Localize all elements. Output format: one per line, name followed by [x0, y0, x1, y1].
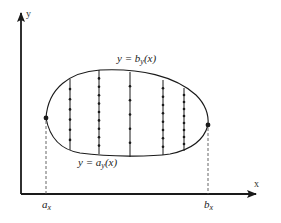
- segment-dot: [162, 145, 165, 148]
- upper-curve-label-suffix: (x): [144, 52, 157, 65]
- segment-dot: [98, 119, 101, 122]
- segment-dot: [183, 122, 186, 125]
- segment-dot: [98, 111, 101, 114]
- segment-dot: [183, 94, 186, 97]
- segment-dot: [98, 86, 101, 89]
- segment-dot: [98, 94, 101, 97]
- right-bound-label: bx: [204, 198, 214, 212]
- segment-dot: [129, 85, 132, 88]
- segment-dot: [183, 136, 186, 139]
- region-diagram: y x y = by(x) y = ay(x) ax bx: [0, 0, 281, 223]
- upper-curve-label-prefix: y = b: [116, 52, 141, 64]
- right-bound-label-sub: x: [209, 203, 214, 212]
- left-bound-label-sub: x: [47, 203, 52, 212]
- segment-dot: [98, 102, 101, 105]
- segment-dot: [162, 137, 165, 140]
- segment-dot: [69, 118, 72, 121]
- segment-dot: [162, 120, 165, 123]
- segment-dot: [183, 108, 186, 111]
- right-bound-point: [206, 123, 211, 128]
- segment-dot: [162, 112, 165, 115]
- segment-dot: [183, 129, 186, 132]
- segment-dot: [98, 144, 101, 147]
- segment-dot: [69, 98, 72, 101]
- segment-dot: [162, 95, 165, 98]
- upper-curve-label: y = by(x): [116, 52, 156, 66]
- x-axis-label: x: [254, 178, 259, 189]
- segment-dot: [129, 113, 132, 116]
- segment-dot: [69, 108, 72, 111]
- segment-dot: [162, 87, 165, 90]
- segment-dot: [98, 77, 101, 80]
- segment-dot: [183, 115, 186, 118]
- lower-curve-label-prefix: y = a: [77, 156, 102, 168]
- segment-dot: [69, 88, 72, 91]
- segment-dot: [129, 99, 132, 102]
- segment-dot: [129, 142, 132, 145]
- segment-dot: [183, 143, 186, 146]
- vertical-segments: [69, 70, 186, 157]
- segment-dot: [183, 101, 186, 104]
- segment-dot: [69, 139, 72, 142]
- lower-curve-label-suffix: (x): [105, 156, 118, 169]
- lower-curve-label: y = ay(x): [77, 156, 117, 170]
- left-bound-label: ax: [42, 198, 52, 212]
- segment-dot: [98, 136, 101, 139]
- segment-dot: [98, 128, 101, 131]
- segment-dot: [129, 127, 132, 130]
- segment-dot: [69, 128, 72, 131]
- segment-dot: [162, 104, 165, 107]
- segment-dot: [162, 129, 165, 132]
- y-axis-label: y: [26, 8, 31, 19]
- left-bound-point: [44, 116, 49, 121]
